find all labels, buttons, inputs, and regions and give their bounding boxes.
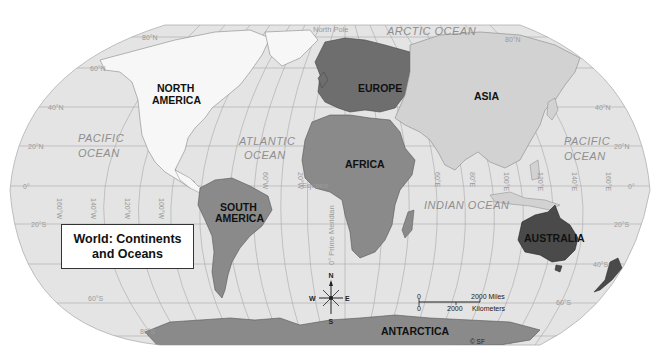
svg-text:20°N: 20°N [28, 143, 44, 150]
svg-text:N: N [329, 272, 334, 279]
africa-label: AFRICA [345, 158, 385, 170]
svg-text:0°: 0° [628, 183, 635, 190]
svg-text:2000: 2000 [447, 305, 463, 312]
north-america-label-2: AMERICA [152, 94, 201, 106]
atlantic-ocean-label-1: ATLANTIC [238, 135, 295, 147]
svg-text:60°S: 60°S [88, 295, 104, 302]
indian-ocean-label: INDIAN OCEAN [424, 199, 509, 211]
svg-text:40°N: 40°N [48, 104, 64, 111]
svg-text:20°S: 20°S [614, 221, 630, 228]
svg-text:20°N: 20°N [614, 143, 630, 150]
svg-text:60°W: 60°W [262, 172, 269, 190]
svg-text:S: S [329, 318, 334, 325]
north-pole-label: North Pole [313, 25, 348, 34]
svg-text:120°E: 120°E [537, 172, 544, 191]
pacific-ocean-west-label-2: OCEAN [78, 147, 120, 159]
svg-text:140°E: 140°E [571, 172, 578, 191]
map-title-box: World: Continents and Oceans [61, 224, 194, 269]
world-map: North Pole ARCTIC OCEAN Equator 0° Prime… [0, 0, 656, 361]
svg-text:0: 0 [417, 293, 421, 300]
svg-text:0: 0 [417, 305, 421, 312]
pacific-ocean-west-label-1: PACIFIC [78, 132, 124, 144]
svg-text:40°S: 40°S [593, 261, 609, 268]
prime-meridian-label: 0° Prime Meridian [327, 205, 336, 265]
svg-text:80°N: 80°N [505, 36, 521, 43]
svg-text:40°N: 40°N [595, 104, 611, 111]
svg-text:160°W: 160°W [56, 198, 63, 219]
copyright-label: © SF [470, 338, 485, 345]
svg-text:20°S: 20°S [31, 221, 47, 228]
svg-text:E: E [345, 295, 350, 302]
europe-label: EUROPE [358, 82, 402, 94]
svg-text:80°N: 80°N [142, 34, 158, 41]
svg-text:100°E: 100°E [503, 172, 510, 191]
asia-label: ASIA [474, 90, 500, 102]
svg-text:60°N: 60°N [90, 65, 106, 72]
svg-text:60°E: 60°E [434, 172, 441, 188]
europe-landmass [315, 38, 410, 112]
map-title-line-2: and Oceans [92, 247, 163, 262]
svg-text:W: W [309, 295, 316, 302]
antarctica-label: ANTARCTICA [381, 325, 449, 337]
atlantic-ocean-label-2: OCEAN [244, 149, 286, 161]
north-america-label-1: NORTH [157, 82, 194, 94]
equator-label: Equator [302, 181, 329, 190]
svg-text:120°W: 120°W [124, 198, 131, 219]
svg-text:140°W: 140°W [90, 198, 97, 219]
map-title-line-1: World: Continents [73, 232, 181, 247]
svg-text:80°S: 80°S [140, 328, 156, 335]
arctic-ocean-label: ARCTIC OCEAN [386, 25, 476, 37]
svg-text:100°W: 100°W [158, 198, 165, 219]
svg-text:Kilometers: Kilometers [472, 305, 506, 312]
svg-text:80°E: 80°E [469, 172, 476, 188]
svg-text:20°W: 20°W [297, 172, 304, 190]
svg-text:2000 Miles: 2000 Miles [471, 293, 505, 300]
svg-text:0°: 0° [23, 183, 30, 190]
pacific-ocean-east-label-2: OCEAN [564, 150, 606, 162]
pacific-ocean-east-label-1: PACIFIC [564, 135, 610, 147]
svg-text:160°E: 160°E [605, 172, 612, 191]
south-america-label-2: AMERICA [215, 212, 264, 224]
svg-text:60°S: 60°S [556, 299, 572, 306]
australia-label: AUSTRALIA [524, 232, 585, 244]
